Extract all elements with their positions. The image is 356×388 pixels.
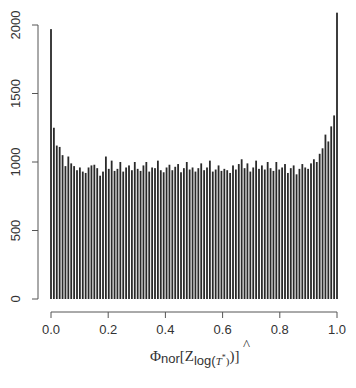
histogram-bar (85, 173, 87, 299)
histogram-bar (223, 169, 225, 299)
histogram-bar (264, 170, 266, 299)
histogram-bar (183, 168, 185, 299)
histogram-bar (102, 172, 104, 299)
histogram-bar (241, 159, 243, 299)
histogram-bar (252, 167, 254, 299)
histogram-bar (284, 164, 286, 299)
histogram-bar (327, 141, 329, 299)
histogram-bar (322, 148, 324, 299)
histogram-bar (330, 126, 332, 299)
histogram-bar (67, 157, 69, 299)
histogram-bar (99, 176, 101, 299)
histogram-bar (62, 155, 64, 299)
histogram-bar (333, 115, 335, 299)
histogram-bar (82, 172, 84, 299)
xlabel-bracket-z: [Z (180, 348, 194, 364)
histogram-bar (50, 29, 52, 299)
histogram-bar (79, 167, 81, 299)
histogram-bar (307, 169, 309, 299)
histogram-bar (215, 170, 217, 299)
histogram-bar (154, 168, 156, 299)
histogram-bar (218, 165, 220, 299)
x-tick-label: 0.2 (99, 322, 117, 337)
xlabel-sub-nor: nor (161, 351, 180, 366)
histogram-bar (53, 128, 55, 299)
x-tick-label: 0.6 (214, 322, 232, 337)
histogram-bar (221, 171, 223, 299)
xlabel-phi: Φ (150, 348, 161, 364)
histogram-bar (108, 169, 110, 299)
histogram-bar (273, 171, 275, 299)
histogram-bar (319, 154, 321, 299)
histogram-bar (131, 170, 133, 299)
x-tick-label: 0.8 (271, 322, 289, 337)
histogram-bar (275, 162, 277, 299)
histogram-bar (137, 169, 139, 299)
histogram-bar (91, 165, 93, 299)
histogram-bar (209, 161, 211, 299)
histogram-bar (255, 161, 257, 299)
histogram-bar (65, 166, 67, 299)
x-axis-label: Φnor[Zlog(T*))] ^ (150, 337, 250, 368)
histogram-bar (93, 165, 95, 299)
histogram-bar (76, 170, 78, 299)
histogram-bar (258, 169, 260, 299)
x-axis: 0.00.20.40.60.81.0 (42, 312, 346, 337)
svg-text:Φnor[Zlog(T*))]: Φnor[Zlog(T*))] (150, 348, 239, 368)
histogram-bar (336, 13, 338, 299)
histogram-bar (304, 167, 306, 299)
histogram-bar (148, 172, 150, 299)
histogram-bar (143, 165, 145, 299)
y-tick-label: 1500 (8, 79, 23, 108)
histogram-bar (114, 171, 116, 299)
histogram-bar (88, 167, 90, 299)
histogram-bar (301, 164, 303, 299)
histogram-bar (180, 172, 182, 299)
histogram-bar (125, 167, 127, 299)
y-axis: 0500100015002000 (8, 11, 38, 303)
histogram-bar (203, 170, 205, 299)
histogram-bar (70, 163, 72, 299)
histogram-chart: 0500100015002000 0.00.20.40.60.81.0 Φnor… (0, 0, 356, 388)
y-tick-label: 500 (8, 220, 23, 242)
x-tick-label: 1.0 (328, 322, 346, 337)
histogram-bar (111, 161, 113, 299)
histogram-bar (296, 174, 298, 299)
histogram-bar (299, 169, 301, 299)
xlabel-bracket-close: )] (229, 348, 239, 365)
x-tick-label: 0.0 (42, 322, 60, 337)
histogram-bar (186, 162, 188, 299)
histogram-bar (206, 167, 208, 299)
histogram-bar (267, 162, 269, 299)
histogram-bars (50, 13, 338, 299)
histogram-bar (177, 164, 179, 299)
histogram-bar (157, 161, 159, 299)
y-tick-label: 0 (8, 295, 23, 302)
histogram-bar (122, 172, 124, 299)
histogram-bar (244, 168, 246, 299)
histogram-bar (287, 173, 289, 299)
histogram-bar (56, 146, 58, 299)
histogram-bar (278, 170, 280, 299)
histogram-bar (281, 167, 283, 299)
histogram-bar (174, 167, 176, 299)
histogram-bar (238, 164, 240, 299)
histogram-bar (151, 167, 153, 299)
histogram-bar (169, 165, 171, 299)
y-tick-label: 1000 (8, 148, 23, 177)
histogram-bar (119, 162, 121, 299)
histogram-bar (145, 162, 147, 299)
histogram-bar (313, 159, 315, 299)
histogram-bar (247, 163, 249, 299)
histogram-bar (226, 170, 228, 299)
histogram-bar (316, 162, 318, 299)
histogram-bar (166, 167, 168, 299)
histogram-bar (197, 168, 199, 299)
histogram-bar (160, 170, 162, 299)
xlabel-sub-log: log( (194, 353, 216, 368)
histogram-bar (59, 147, 61, 299)
histogram-bar (325, 135, 327, 299)
xlabel-hat: ^ (243, 337, 250, 353)
histogram-bar (290, 168, 292, 299)
histogram-bar (195, 172, 197, 299)
